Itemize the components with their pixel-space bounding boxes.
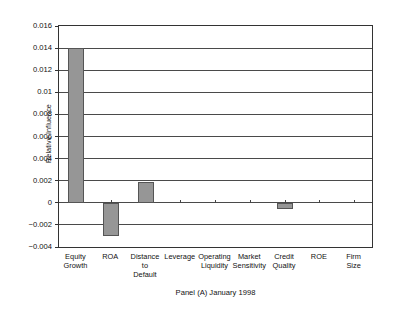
y-axis-tick-label: −0.004 — [0, 242, 52, 251]
bar — [68, 48, 84, 203]
x-axis-tick-mark — [250, 200, 251, 203]
y-axis-tick-mark — [55, 180, 59, 181]
y-axis-tick-mark — [55, 92, 59, 93]
bar — [277, 203, 293, 210]
y-axis-tick-mark — [55, 158, 59, 159]
y-axis-tick-mark — [55, 114, 59, 115]
x-axis-tick-mark — [180, 200, 181, 203]
gridline — [59, 48, 372, 49]
bar — [103, 203, 119, 236]
gridline — [59, 136, 372, 137]
y-axis-tick-mark — [55, 224, 59, 225]
y-axis-tick-mark — [55, 202, 59, 203]
x-axis-tick-mark — [354, 200, 355, 203]
x-axis-tick-mark — [319, 200, 320, 203]
gridline — [59, 180, 372, 181]
y-axis-tick-label: 0.006 — [0, 131, 52, 140]
plot-inner — [59, 26, 372, 247]
y-axis-tick-label: 0.008 — [0, 109, 52, 118]
bar — [138, 182, 154, 203]
gridline — [59, 70, 372, 71]
bar-chart-figure: Relative Influence −0.004−0.00200.0020.0… — [0, 0, 394, 321]
x-axis-tick-label-line: Default — [122, 270, 169, 279]
x-axis-tick-mark — [215, 200, 216, 203]
x-axis-tick-label-line: Firm — [330, 252, 377, 261]
y-axis-tick-mark — [55, 136, 59, 137]
gridline — [59, 158, 372, 159]
x-axis-tick-label: FirmSize — [330, 252, 377, 270]
y-axis-tick-label: 0.016 — [0, 21, 52, 30]
x-axis-tick-label-line: Quality — [261, 261, 308, 270]
y-axis-tick-label: 0.014 — [0, 43, 52, 52]
gridline — [59, 92, 372, 93]
figure-caption: Panel (A) January 1998 — [58, 288, 373, 297]
y-axis-tick-label: −0.002 — [0, 219, 52, 228]
y-axis-tick-mark — [55, 70, 59, 71]
y-axis-tick-mark — [55, 247, 59, 248]
gridline — [59, 114, 372, 115]
plot-area — [58, 25, 373, 248]
y-axis-tick-mark — [55, 48, 59, 49]
y-axis-tick-mark — [55, 26, 59, 27]
y-axis-tick-label: 0.004 — [0, 153, 52, 162]
y-axis-tick-label: 0.012 — [0, 65, 52, 74]
y-axis-tick-label: 0 — [0, 197, 52, 206]
y-axis-tick-label: 0.002 — [0, 175, 52, 184]
x-axis-tick-label-line: Growth — [52, 261, 99, 270]
x-axis-tick-label-line: Size — [330, 261, 377, 270]
x-axis-tick-label-line: to — [122, 261, 169, 270]
y-axis-tick-label: 0.01 — [0, 87, 52, 96]
